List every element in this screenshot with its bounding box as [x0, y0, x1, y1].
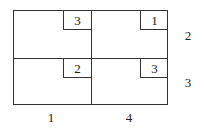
cost-box: 1: [140, 11, 168, 30]
cell-r2-c1: 2: [14, 59, 91, 105]
supply-row-1: 2: [181, 28, 195, 44]
cost-box: 2: [63, 59, 91, 78]
cell-r1-c1: 3: [14, 11, 91, 58]
cell-r2-c2: 3: [92, 59, 168, 105]
transportation-table: 3 1 2 3: [13, 10, 168, 105]
cost-box: 3: [140, 59, 168, 78]
demand-col-1: 1: [44, 110, 58, 126]
cell-r1-c2: 1: [92, 11, 168, 58]
demand-col-2: 4: [122, 110, 136, 126]
supply-row-2: 3: [181, 75, 195, 91]
cost-box: 3: [63, 11, 91, 30]
